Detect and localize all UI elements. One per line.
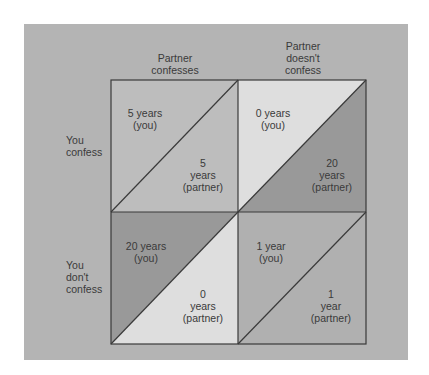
- row-header-line: You: [66, 134, 110, 146]
- row-header-you-dont-confess: You don't confess: [66, 259, 110, 295]
- payoff-text: 20 years: [118, 240, 174, 252]
- column-header-line: doesn't: [268, 52, 338, 64]
- payoff-text: (partner): [178, 181, 228, 193]
- payoff-text: 0: [178, 288, 228, 300]
- payoff-text: (you): [120, 119, 170, 131]
- payoff-text: 1: [305, 288, 357, 300]
- column-header-line: confesses: [145, 64, 205, 76]
- payoff-text: (partner): [178, 312, 228, 324]
- cell-tl-partner-label: 5 years (partner): [178, 157, 228, 193]
- row-header-line: confess: [66, 146, 110, 158]
- payoff-text: years: [178, 169, 228, 181]
- column-header-line: Partner: [268, 40, 338, 52]
- payoff-text: (you): [246, 252, 296, 264]
- payoff-text: (partner): [305, 312, 357, 324]
- column-header-line: Partner: [145, 52, 205, 64]
- payoff-text: year: [305, 300, 357, 312]
- column-header-partner-doesnt-confess: Partner doesn't confess: [268, 40, 338, 76]
- payoff-text: (you): [248, 119, 298, 131]
- payoff-text: 20: [306, 157, 358, 169]
- cell-tl-you-label: 5 years (you): [120, 107, 170, 131]
- column-header-line: confess: [268, 64, 338, 76]
- cell-tr-you-label: 0 years (you): [248, 107, 298, 131]
- row-header-line: confess: [66, 283, 110, 295]
- cell-bl-you-label: 20 years (you): [118, 240, 174, 264]
- payoff-text: 5 years: [120, 107, 170, 119]
- cell-tr-partner-label: 20 years (partner): [306, 157, 358, 193]
- payoff-text: 1 year: [246, 240, 296, 252]
- row-header-line: don't: [66, 271, 110, 283]
- row-header-line: You: [66, 259, 110, 271]
- row-header-you-confess: You confess: [66, 134, 110, 158]
- payoff-text: 5: [178, 157, 228, 169]
- cell-br-partner-label: 1 year (partner): [305, 288, 357, 324]
- payoff-text: (you): [118, 252, 174, 264]
- payoff-text: years: [306, 169, 358, 181]
- cell-br-you-label: 1 year (you): [246, 240, 296, 264]
- cell-bl-partner-label: 0 years (partner): [178, 288, 228, 324]
- payoff-text: (partner): [306, 181, 358, 193]
- payoff-text: 0 years: [248, 107, 298, 119]
- column-header-partner-confesses: Partner confesses: [145, 52, 205, 76]
- payoff-text: years: [178, 300, 228, 312]
